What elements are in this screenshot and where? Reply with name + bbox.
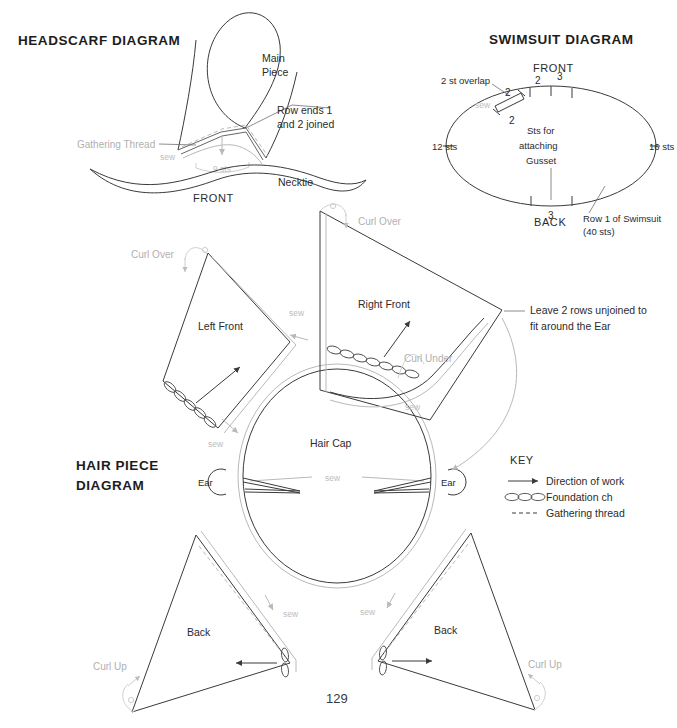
swimsuit-num-overlap-bottom: 2: [509, 115, 515, 126]
back-left-label: Back: [187, 626, 211, 638]
key-item-1-label: Foundation ch: [546, 491, 613, 503]
headscarf-gathering-label: Gathering Thread: [77, 139, 155, 150]
hairpiece-title-line1: HAIR PIECE: [76, 458, 159, 473]
swimsuit-num-front-two: 2: [535, 75, 541, 86]
leave-rows-line1: Leave 2 rows unjoined to: [530, 304, 647, 316]
haircap-notch-left-b: [243, 482, 300, 493]
swimsuit-row1-line2: (40 sts): [583, 226, 615, 237]
headscarf-mainpiece-line1: Main: [262, 52, 285, 64]
back-left-foundation-chain: [281, 648, 290, 678]
back-left-sew-arrow: [265, 595, 273, 610]
back-right-outline: [378, 533, 535, 710]
haircap-notch-left-d: [245, 492, 300, 493]
ear-left-label: Ear: [198, 477, 213, 488]
left-front-sew-upper-label: sew: [289, 308, 305, 318]
haircap-notch-right-d: [374, 492, 429, 493]
swimsuit-num-back-three: 3: [548, 210, 554, 221]
curl-over-right-arc: [320, 204, 346, 216]
headscarf-sew-label: sew: [160, 152, 176, 162]
swimsuit-gusset-line1: Sts for: [527, 125, 554, 136]
swimsuit-title: SWIMSUIT DIAGRAM: [489, 32, 634, 47]
back-right-label: Back: [434, 624, 458, 636]
right-front-lower-band-b: [330, 323, 488, 407]
curl-over-left-label: Curl Over: [131, 249, 174, 260]
curl-over-right-label: Curl Over: [358, 216, 401, 227]
swimsuit-right-sts: 16 sts: [649, 141, 675, 152]
diagram-canvas: HEADSCARF DIAGRAM 9 sts sew Gathering Th…: [0, 0, 677, 728]
swimsuit-left-sts: 12 sts: [432, 141, 458, 152]
back-right-sew-arrow: [387, 593, 395, 608]
hairpiece-diagram: HAIR PIECE DIAGRAM Hair Cap sew Ear Ear …: [76, 203, 647, 712]
key-item-0-label: Direction of work: [546, 475, 625, 487]
right-front-direction-arrow: [384, 321, 410, 357]
swimsuit-num-overlap-top: 2: [505, 87, 511, 98]
right-front-outline: [320, 211, 502, 420]
haircap-notch-right-b: [374, 482, 431, 493]
leave-rows-line2: fit around the Ear: [530, 320, 611, 332]
swimsuit-sew-label: sew: [475, 100, 491, 110]
headscarf-gathering-leader: [159, 144, 196, 145]
swimsuit-row1-leader: [589, 186, 605, 213]
back-left-gathering-dash: [199, 546, 286, 658]
curl-up-right-label: Curl Up: [528, 659, 562, 670]
curl-up-left-loop: [128, 697, 133, 702]
haircap-sew-label: sew: [325, 473, 341, 483]
left-front-outline: [163, 253, 290, 428]
haircap-label: Hair Cap: [310, 437, 352, 449]
curl-up-right-arrow: [528, 674, 540, 684]
right-front-label: Right Front: [358, 298, 410, 310]
back-left-sew-label: sew: [283, 609, 299, 619]
headscarf-necktie-label: Necktie: [278, 176, 313, 188]
headscarf-left-wing: [178, 40, 196, 150]
ear-right-label: Ear: [441, 477, 456, 488]
key-chain-ovals-icon: [505, 493, 545, 500]
key-item-2-label: Gathering thread: [546, 507, 625, 519]
headscarf-necktie-top: [90, 165, 366, 185]
back-left-outline: [132, 535, 290, 712]
curl-over-left-arc: [185, 248, 207, 260]
swimsuit-num-front-three: 3: [557, 71, 563, 82]
left-front-sew-lower-label: sew: [208, 439, 224, 449]
left-front-sew-arrow-lower: [222, 419, 238, 433]
headscarf-gathering-dash: [182, 125, 268, 156]
hairpiece-title-line2: DIAGRAM: [76, 478, 144, 493]
curl-up-left-label: Curl Up: [93, 661, 127, 672]
back-right-sew-label: sew: [360, 607, 376, 617]
headscarf-mainpiece-line2: Piece: [262, 66, 288, 78]
swimsuit-diagram: SWIMSUIT DIAGRAM FRONT BACK sew 2 st ove…: [432, 32, 675, 237]
right-front-sew-label: sew: [405, 402, 421, 412]
left-front-sew-edge: [212, 257, 296, 433]
headscarf-rowends-line2: and 2 joined: [277, 118, 334, 130]
swimsuit-front-label: FRONT: [533, 62, 574, 74]
left-front-label: Left Front: [198, 320, 243, 332]
headscarf-front-label: FRONT: [193, 192, 234, 204]
curl-under-line1: Curl Under: [404, 353, 453, 364]
diagram-page: HEADSCARF DIAGRAM 9 sts sew Gathering Th…: [0, 0, 677, 728]
back-right-foundation-chain: [379, 646, 388, 676]
swimsuit-gusset-line3: Gusset: [526, 155, 556, 166]
swimsuit-gusset-line2: attaching: [519, 140, 558, 151]
curl-up-right-loop: [534, 695, 539, 700]
left-front-sew-arrow-upper: [290, 335, 308, 340]
swimsuit-overlap-label: 2 st overlap: [441, 75, 490, 86]
curl-up-left-arrow: [128, 676, 140, 686]
headscarf-diagram: HEADSCARF DIAGRAM 9 sts sew Gathering Th…: [18, 13, 366, 204]
page-number: 129: [326, 691, 348, 706]
key-heading: KEY: [510, 454, 534, 466]
left-front-direction-arrow: [196, 367, 240, 403]
headscarf-rowends-line1: Row ends 1: [277, 104, 333, 116]
headscarf-title: HEADSCARF DIAGRAM: [18, 33, 180, 48]
swimsuit-row1-line1: Row 1 of Swimsuit: [583, 213, 661, 224]
key-legend: KEY Direction of work Foundation ch Gath…: [505, 454, 625, 519]
ear-wrap-arrow: [452, 318, 517, 470]
